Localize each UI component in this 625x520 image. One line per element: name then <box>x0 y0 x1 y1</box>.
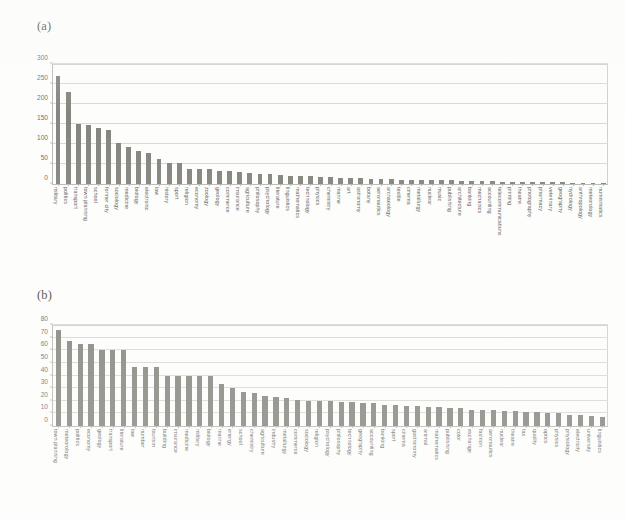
bar-slot <box>303 325 314 426</box>
x-axis-tick-label: meteorology <box>64 429 70 459</box>
x-label-slot: biology <box>134 184 144 274</box>
x-axis-tick-label: physics <box>315 187 321 205</box>
bar <box>230 388 235 426</box>
bar <box>295 400 300 427</box>
bar <box>177 163 182 184</box>
x-axis-tick-label: theatre <box>517 187 523 204</box>
x-label-slot: geology <box>215 184 225 274</box>
x-axis-tick-label: quality <box>531 429 537 445</box>
bar <box>146 153 151 184</box>
x-axis-tick-label: industry <box>270 429 276 448</box>
x-label-slot: astronomy <box>356 184 366 274</box>
x-axis-tick-mark <box>119 184 120 186</box>
x-label-slot: industry <box>271 426 282 516</box>
x-axis-tick-mark <box>512 184 513 186</box>
x-axis-tick-label: veterinary <box>547 187 553 211</box>
x-axis-tick-label: medicine <box>183 429 189 451</box>
bar-slot <box>164 64 174 184</box>
x-axis-tick-label: military <box>194 429 200 446</box>
bar-slot <box>455 325 466 426</box>
bar <box>556 413 561 426</box>
x-axis-tick-mark <box>69 426 70 428</box>
x-label-slot: physics <box>553 426 564 516</box>
x-axis-tick-label: sociology <box>303 429 309 452</box>
x-axis-tick-mark <box>270 184 271 186</box>
x-axis-tick-label: botany <box>365 187 371 204</box>
bar-slot <box>315 64 325 184</box>
y-axis-tick-label: 100 <box>37 134 48 141</box>
x-axis-tick-mark <box>88 184 89 186</box>
x-label-slot: commerce <box>292 426 303 516</box>
x-axis-tick-mark <box>135 426 136 428</box>
bar-slot <box>532 325 543 426</box>
x-axis-tick-label: school <box>93 187 99 203</box>
x-axis-tick-mark <box>341 426 342 428</box>
x-axis-tick-label: hydrology <box>567 187 573 211</box>
x-axis-tick-label: physiology <box>564 429 570 455</box>
x-label-slot: medicine <box>184 426 195 516</box>
x-label-slot: physics <box>315 184 325 274</box>
x-axis-tick-mark <box>593 184 594 186</box>
x-axis-tick-label: aeronautics <box>375 187 381 215</box>
x-label-slot: town planning <box>53 426 64 516</box>
bar-slot <box>314 325 325 426</box>
x-axis-tick-label: cinema <box>401 429 407 447</box>
bar-slot <box>271 325 282 426</box>
bar <box>56 330 61 426</box>
x-label-slot: school <box>238 426 249 516</box>
x-axis-tick-mark <box>570 426 571 428</box>
x-axis-tick-label: geography <box>357 429 363 455</box>
x-axis-tick-label: insurance <box>234 187 240 211</box>
bar-slot <box>305 64 315 184</box>
x-label-slot: architecture <box>457 184 467 274</box>
bar <box>132 367 137 426</box>
x-axis-tick-mark <box>391 184 392 186</box>
x-axis-tick-mark <box>462 184 463 186</box>
x-axis-tick-label: philosophy <box>336 429 342 455</box>
x-axis-tick-label: telecommunications <box>497 187 503 236</box>
x-axis-tick-mark <box>240 184 241 186</box>
bar-slot <box>325 325 336 426</box>
x-label-slot: psychology <box>325 426 336 516</box>
x-label-slot: metallurgy <box>281 426 292 516</box>
x-axis-tick-label: banking <box>379 429 385 448</box>
bar-slot <box>379 325 390 426</box>
x-axis-tick-mark <box>442 184 443 186</box>
bar <box>126 147 131 184</box>
x-axis-tick-label: marine <box>335 187 341 204</box>
x-axis-tick-mark <box>58 184 59 186</box>
x-axis-tick-label: military <box>52 187 58 204</box>
x-label-slot: former city <box>103 184 113 274</box>
bar <box>371 403 376 426</box>
bar-slot <box>597 325 608 426</box>
x-axis-tick-mark <box>78 184 79 186</box>
bar-slot <box>575 325 586 426</box>
x-axis-tick-mark <box>537 426 538 428</box>
x-axis-tick-label: chemistry <box>325 187 331 211</box>
x-axis-tick-mark <box>124 426 125 428</box>
bar-slot <box>416 64 426 184</box>
bar <box>415 406 420 426</box>
x-axis-tick-mark <box>361 184 362 186</box>
x-label-slot: hydrology <box>568 184 578 274</box>
bar-series-b <box>53 325 608 426</box>
bar <box>469 410 474 426</box>
bar <box>110 350 115 426</box>
x-axis-tick-mark <box>330 426 331 428</box>
x-axis-tick-mark <box>401 184 402 186</box>
bar-slot <box>336 64 346 184</box>
bar <box>426 407 431 426</box>
x-axis-tick-mark <box>149 184 150 186</box>
x-label-slot: philosophy <box>336 426 347 516</box>
x-label-slot: zoology <box>204 184 214 274</box>
bar <box>121 350 126 426</box>
x-label-slot: cinema <box>401 426 412 516</box>
x-axis-tick-mark <box>310 184 311 186</box>
x-axis-tick-mark <box>493 426 494 428</box>
bar-slot <box>426 64 436 184</box>
bar-slot <box>53 325 64 426</box>
bar-slot <box>527 64 537 184</box>
x-axis-tick-mark <box>200 426 201 428</box>
x-axis-tick-label: music <box>436 187 442 201</box>
y-axis-tick-label: 60 <box>41 340 48 347</box>
